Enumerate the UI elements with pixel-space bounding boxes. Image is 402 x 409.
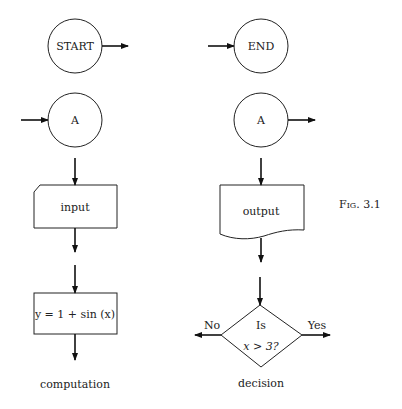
decision-yes-label: Yes: [307, 319, 327, 332]
end-terminal: END: [234, 19, 288, 73]
decision-line1: Is: [256, 319, 266, 332]
computation-formula: y = 1 + sin (x): [34, 308, 115, 321]
flowchart-symbols-figure: START END A A input output Fig. 3.1 y = …: [0, 0, 402, 409]
computation-symbol: y = 1 + sin (x): [34, 293, 117, 334]
connector-left: A: [48, 93, 102, 147]
input-label: input: [60, 201, 90, 214]
decision-caption: decision: [238, 377, 284, 390]
start-label: START: [56, 40, 94, 53]
decision-symbol: Is x > 3?: [221, 305, 302, 367]
connector-right: A: [234, 93, 288, 147]
connector-left-label: A: [70, 114, 80, 127]
output-symbol: output: [220, 185, 304, 239]
end-label: END: [248, 40, 275, 53]
connector-right-label: A: [256, 114, 266, 127]
start-terminal: START: [48, 19, 102, 73]
figure-caption: Fig. 3.1: [339, 198, 381, 211]
computation-caption: computation: [40, 378, 110, 391]
decision-line2: x > 3?: [243, 340, 278, 353]
input-symbol: input: [34, 185, 117, 228]
decision-no-label: No: [204, 319, 221, 332]
output-label: output: [243, 205, 280, 218]
